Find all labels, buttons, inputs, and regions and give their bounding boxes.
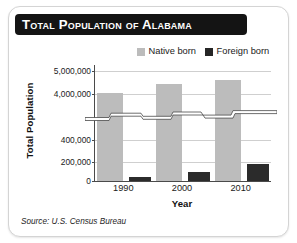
y-axis-tick-label: 200,000 xyxy=(61,158,91,166)
bar-foreign-born-2000 xyxy=(188,172,210,181)
source-note: Source: U.S. Census Bureau xyxy=(21,217,126,226)
bar-native-born-2000 xyxy=(156,84,182,181)
legend-swatch-native-icon xyxy=(137,48,145,56)
legend-label-foreign-born: Foreign born xyxy=(217,47,270,56)
bar-native-born-2010 xyxy=(215,80,241,181)
legend-label-native-born: Native born xyxy=(149,47,197,56)
plot-canvas xyxy=(94,65,271,182)
x-axis-tick-label: 2000 xyxy=(172,184,192,193)
x-axis-tick-label: 1990 xyxy=(113,184,133,193)
bar-group xyxy=(95,65,271,181)
y-axis-tick-label: 400,000 xyxy=(61,136,91,144)
page-title: Total Population of Alabama xyxy=(22,18,192,31)
plot-area: Total Population 5,000,0004,000,000400,0… xyxy=(9,59,289,191)
chart-legend: Native born Foreign born xyxy=(137,47,269,56)
chart-card: Total Population of Alabama Native born … xyxy=(8,6,289,237)
bar-foreign-born-2010 xyxy=(247,164,269,181)
legend-swatch-foreign-icon xyxy=(205,48,213,56)
card-inner: Total Population of Alabama Native born … xyxy=(9,7,288,236)
y-axis-tick-label: 0 xyxy=(86,177,91,185)
y-axis-tick-label: 4,000,000 xyxy=(54,90,91,98)
x-axis-tick-label: 2010 xyxy=(230,184,250,193)
x-axis-title: Year xyxy=(94,198,270,209)
legend-item-foreign-born: Foreign born xyxy=(205,47,269,56)
x-axis-tick-labels: 199020002010 xyxy=(94,184,270,198)
bar-foreign-born-1990 xyxy=(129,177,151,182)
chart-title-bar: Total Population of Alabama xyxy=(15,14,247,35)
y-axis-tick-labels: 5,000,0004,000,000400,000200,0000 xyxy=(33,59,91,181)
legend-item-native-born: Native born xyxy=(137,47,196,56)
bar-native-born-1990 xyxy=(97,93,123,181)
y-axis-tickmark xyxy=(92,181,95,182)
y-axis-tick-label: 5,000,000 xyxy=(54,67,91,75)
